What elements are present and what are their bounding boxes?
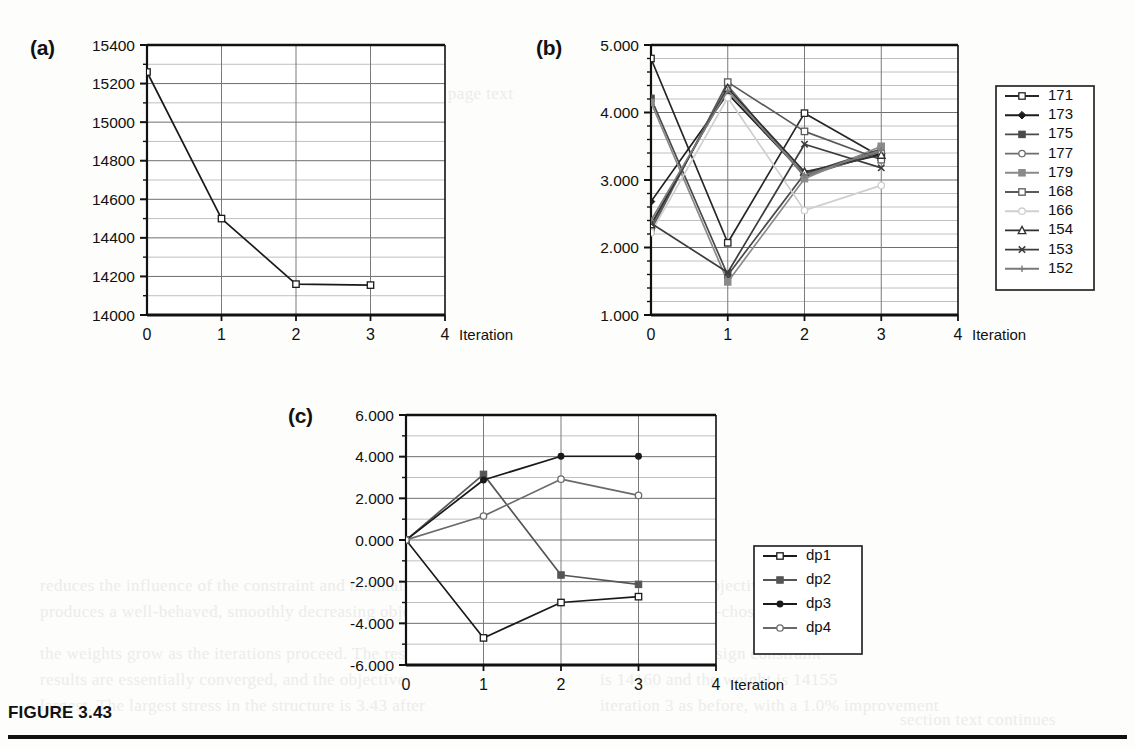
figure-caption: FIGURE 3.43: [8, 703, 112, 723]
x-tick-label: 1: [723, 326, 732, 343]
y-axis-ticks: 1.0002.0003.0004.0005.000: [600, 37, 651, 324]
chart-panel-b: (b) 1.0002.0003.0004.0005.00001234Iterat…: [530, 28, 1135, 358]
y-tick-label: -4.000: [350, 615, 394, 632]
legend-label: 152: [1048, 259, 1073, 276]
x-tick-label: 4: [712, 676, 721, 693]
y-tick-label: 2.000: [355, 490, 394, 507]
legend-label: dp3: [806, 594, 831, 611]
y-tick-label: 14000: [92, 307, 135, 324]
x-axis-ticks: 01234Iteration: [402, 665, 785, 693]
x-tick-label: 2: [557, 676, 566, 693]
x-tick-label: 3: [877, 326, 886, 343]
y-tick-label: 0.000: [355, 532, 394, 549]
x-axis-title: Iteration: [459, 326, 513, 343]
x-tick-label: 1: [217, 326, 226, 343]
y-axis-ticks: -6.000-4.000-2.0000.0002.0004.0006.000: [350, 407, 406, 674]
x-tick-label: 3: [634, 676, 643, 693]
y-tick-label: 14200: [92, 268, 135, 285]
plot-area: -6.000-4.000-2.0000.0002.0004.0006.00001…: [350, 407, 784, 694]
legend-label: 177: [1048, 144, 1073, 161]
y-tick-label: 3.000: [600, 172, 639, 189]
chart-panel-c: (c) -6.000-4.000-2.0000.0002.0004.0006.0…: [280, 398, 900, 698]
y-tick-label: 15400: [92, 37, 135, 54]
y-tick-label: 14800: [92, 152, 135, 169]
legend-label: dp2: [806, 570, 831, 587]
y-tick-label: 14600: [92, 191, 135, 208]
legend-label: 179: [1048, 163, 1073, 180]
panel-b-label: (b): [536, 36, 562, 60]
plot-area: 1.0002.0003.0004.0005.00001234Iteration: [600, 37, 1026, 344]
legend-label: 154: [1048, 220, 1073, 237]
chart-c-canvas: -6.000-4.000-2.0000.0002.0004.0006.00001…: [280, 398, 900, 698]
legend-label: 168: [1048, 182, 1073, 199]
x-tick-label: 1: [479, 676, 488, 693]
chart-legend: dp1dp2dp3dp4: [754, 546, 862, 654]
legend-label: 175: [1048, 124, 1073, 141]
chart-b-canvas: 1.0002.0003.0004.0005.00001234Iteration1…: [530, 28, 1135, 358]
y-tick-label: 4.000: [355, 448, 394, 465]
y-tick-label: 6.000: [355, 407, 394, 424]
legend-label: 171: [1048, 86, 1073, 103]
bleedthrough-text: section text continues: [900, 706, 1056, 733]
y-tick-label: 2.000: [600, 239, 639, 256]
chart-legend: 171173175177179168166154153152: [996, 86, 1094, 290]
y-tick-label: 15000: [92, 114, 135, 131]
legend-label: 173: [1048, 105, 1073, 122]
x-axis-title: Iteration: [972, 326, 1026, 343]
y-axis-ticks: 1400014200144001460014800150001520015400: [92, 37, 147, 324]
x-tick-label: 0: [402, 676, 411, 693]
x-axis-ticks: 01234Iteration: [143, 315, 514, 343]
y-tick-label: -2.000: [350, 573, 394, 590]
x-tick-label: 2: [292, 326, 301, 343]
x-tick-label: 0: [647, 326, 656, 343]
legend-label: dp4: [806, 618, 831, 635]
y-tick-label: 1.000: [600, 307, 639, 324]
legend-label: dp1: [806, 546, 831, 563]
x-tick-label: 2: [800, 326, 809, 343]
chart-a-canvas: 1400014200144001460014800150001520015400…: [0, 28, 500, 358]
x-tick-label: 3: [366, 326, 375, 343]
x-axis-ticks: 01234Iteration: [647, 315, 1027, 343]
x-tick-label: 4: [954, 326, 963, 343]
x-tick-label: 0: [143, 326, 152, 343]
x-axis-title: Iteration: [730, 676, 784, 693]
x-tick-label: 4: [441, 326, 450, 343]
legend-label: 166: [1048, 201, 1073, 218]
plot-area: 1400014200144001460014800150001520015400…: [92, 37, 513, 344]
panel-c-label: (c): [288, 404, 313, 428]
y-tick-label: 14400: [92, 229, 135, 246]
y-tick-label: 5.000: [600, 37, 639, 54]
y-tick-label: -6.000: [350, 657, 394, 674]
y-tick-label: 15200: [92, 75, 135, 92]
panel-a-label: (a): [30, 36, 55, 60]
chart-panel-a: (a) 140001420014400146001480015000152001…: [0, 28, 500, 358]
caption-rule: [8, 735, 1127, 739]
legend-label: 153: [1048, 240, 1073, 257]
y-tick-label: 4.000: [600, 104, 639, 121]
